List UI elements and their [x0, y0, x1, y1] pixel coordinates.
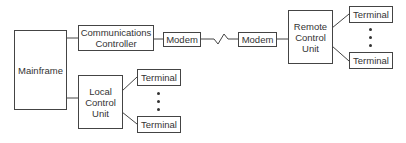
modem-remote-node: Modem	[238, 32, 277, 47]
remote-terminal-bottom-label: Terminal	[353, 55, 389, 66]
remote-terminal-bottom-node: Terminal	[349, 52, 393, 69]
modem-remote-label: Modem	[242, 34, 274, 45]
local-control-unit-label: Local Control Unit	[85, 86, 116, 119]
remote-control-unit-label: Remote Control Unit	[294, 21, 327, 54]
mainframe-node: Mainframe	[14, 30, 67, 110]
modem-local-node: Modem	[163, 32, 201, 47]
remote-control-unit-node: Remote Control Unit	[288, 10, 333, 64]
local-terminal-bottom-node: Terminal	[137, 116, 181, 133]
mainframe-label: Mainframe	[18, 65, 63, 76]
modem-local-label: Modem	[166, 34, 198, 45]
local-control-unit-node: Local Control Unit	[78, 75, 123, 129]
remote-terminal-top-node: Terminal	[349, 6, 393, 23]
communications-controller-label: Communications Controller	[81, 27, 152, 49]
local-terminal-top-label: Terminal	[141, 72, 177, 83]
local-terminal-top-node: Terminal	[137, 69, 181, 86]
remote-terminals-ellipsis	[368, 28, 372, 52]
remote-terminal-top-label: Terminal	[353, 9, 389, 20]
local-terminal-bottom-label: Terminal	[141, 119, 177, 130]
communications-controller-node: Communications Controller	[78, 25, 154, 51]
local-terminals-ellipsis	[156, 92, 160, 116]
